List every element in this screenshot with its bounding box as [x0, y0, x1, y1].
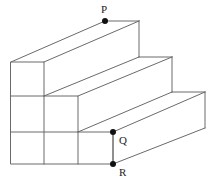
staircase-diagram: PQR	[0, 0, 221, 185]
edges-group	[11, 21, 205, 164]
vertex-label-p: P	[101, 3, 107, 15]
vertex-labels-group: PQR	[101, 3, 127, 178]
vertex-marker-r	[110, 161, 116, 167]
vertex-label-r: R	[119, 166, 127, 178]
vertex-marker-p	[102, 18, 108, 24]
vertex-marker-q	[110, 129, 116, 135]
vertex-markers-group	[102, 18, 116, 167]
front-face-outline	[11, 62, 113, 164]
figure-container: PQR	[0, 0, 221, 185]
vertex-label-q: Q	[119, 134, 127, 146]
